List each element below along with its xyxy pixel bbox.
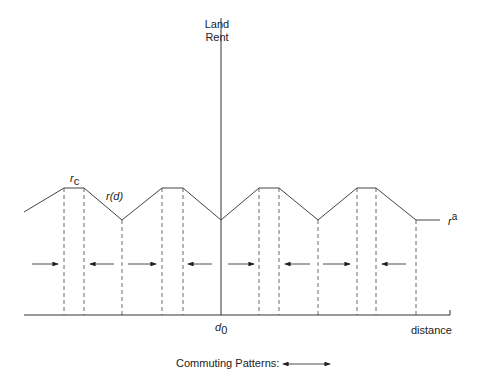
- agri-label-sup: a: [452, 211, 458, 222]
- center-label-sub: 0: [221, 324, 227, 336]
- peak-label-sub: c: [74, 175, 80, 187]
- center-label: d0: [215, 321, 227, 337]
- y-axis-label-line1: Land: [199, 18, 235, 31]
- legend-label: Commuting Patterns:: [176, 357, 279, 370]
- y-axis-label-line2: Rent: [199, 31, 235, 44]
- agri-rent-label: ra: [448, 210, 457, 228]
- peak-label: rc: [70, 172, 79, 188]
- dashed-boundaries: [64, 188, 416, 315]
- rent-curve: [24, 188, 440, 220]
- y-axis-label: Land Rent: [199, 18, 235, 44]
- curve-label: r(d): [106, 190, 123, 203]
- x-axis-label: distance: [411, 324, 452, 337]
